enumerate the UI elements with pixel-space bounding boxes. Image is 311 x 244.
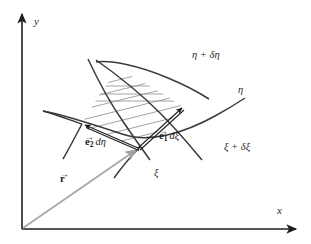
curve-label-eta-plus-delta-eta: η + δη	[192, 50, 220, 61]
x-axis-label: x	[277, 205, 282, 216]
e1-symbol: →e	[159, 131, 164, 142]
vector-arrow-accent: →	[85, 133, 90, 142]
e2-differential: dη	[95, 136, 105, 147]
e1-differential: dξ	[169, 130, 179, 141]
curve-eta-left-tail	[43, 111, 82, 124]
figure-canvas: y x η + δη η ξ + δξ ξ →e2dη →e1dξ →r	[0, 0, 311, 244]
curve-xi-left-tail	[63, 124, 82, 159]
vector-label-r: →r	[60, 174, 65, 185]
vector-label-e2-deta: →e2dη	[85, 137, 106, 149]
vector-arrow-accent: →	[159, 127, 164, 136]
r-symbol: →r	[60, 174, 65, 185]
curve-label-xi-plus-delta-xi: ξ + δξ	[224, 142, 250, 153]
vector-arrow-accent: →	[60, 170, 65, 179]
y-axis-label: y	[34, 16, 39, 27]
vector-r	[23, 150, 136, 228]
e2-symbol: →e	[85, 137, 90, 148]
diagram-svg	[0, 0, 311, 244]
vector-label-e1-dxi: →e1dξ	[159, 131, 179, 143]
curve-label-xi: ξ	[154, 168, 159, 179]
curve-label-eta: η	[238, 85, 243, 96]
